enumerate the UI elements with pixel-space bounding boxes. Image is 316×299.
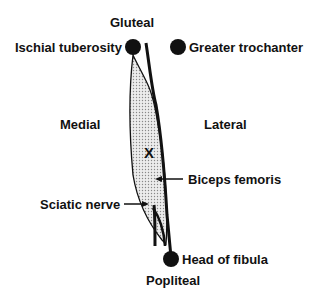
lateral-label: Lateral bbox=[204, 118, 247, 131]
ischial-tuberosity-label: Ischial tuberosity bbox=[15, 41, 122, 54]
ischial-tuberosity-dot bbox=[125, 39, 141, 55]
gluteal-label: Gluteal bbox=[110, 16, 154, 29]
anatomy-diagram: Gluteal Ischial tuberosity Greater troch… bbox=[0, 0, 316, 299]
biceps-femoris-label: Biceps femoris bbox=[188, 173, 281, 186]
medial-label: Medial bbox=[60, 118, 100, 131]
popliteal-label: Popliteal bbox=[146, 274, 200, 287]
head-of-fibula-label: Head of fibula bbox=[182, 253, 268, 266]
head-of-fibula-dot bbox=[163, 251, 179, 267]
sciatic-nerve-label: Sciatic nerve bbox=[40, 198, 120, 211]
x-mark: X bbox=[144, 145, 154, 160]
greater-trochanter-label: Greater trochanter bbox=[189, 41, 303, 54]
greater-trochanter-dot bbox=[170, 39, 186, 55]
